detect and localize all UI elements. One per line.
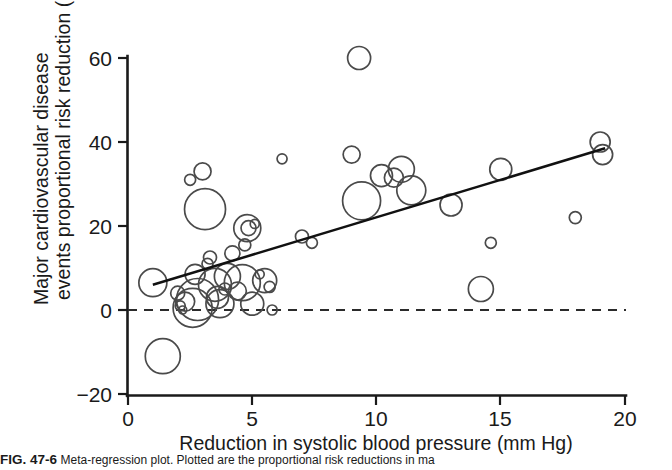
meta-regression-scatter-plot: Major cardiovascular disease events prop… bbox=[0, 0, 672, 470]
bubble-marker bbox=[569, 212, 581, 224]
bubble-marker bbox=[241, 292, 264, 315]
bubble-marker bbox=[185, 174, 196, 185]
bubble-marker bbox=[468, 277, 493, 302]
bubble-marker bbox=[397, 176, 426, 205]
y-axis-ticks: 60 40 20 0 −20 bbox=[76, 47, 127, 406]
bubble-marker bbox=[388, 156, 414, 182]
bubble-marker bbox=[145, 339, 180, 374]
regression-trend-line bbox=[153, 148, 605, 284]
bubble-marker bbox=[206, 290, 234, 318]
y-tick-label-40: 40 bbox=[89, 131, 112, 154]
bubble-marker bbox=[194, 163, 211, 180]
figure-panel: Major cardiovascular disease events prop… bbox=[0, 0, 672, 470]
x-tick-label-5: 5 bbox=[246, 407, 258, 430]
y-axis-title-line1: Major cardiovascular disease bbox=[30, 52, 52, 305]
y-tick-label-60: 60 bbox=[89, 47, 112, 70]
x-axis-title: Reduction in systolic blood pressure (mm… bbox=[179, 432, 572, 454]
bubble-marker bbox=[214, 263, 240, 289]
x-tick-label-10: 10 bbox=[364, 407, 387, 430]
y-tick-label-0: 0 bbox=[100, 299, 112, 322]
bubble-marker bbox=[348, 47, 371, 70]
x-tick-label-0: 0 bbox=[122, 407, 134, 430]
bubble-marker bbox=[485, 237, 496, 248]
y-tick-label-minus20: −20 bbox=[76, 383, 112, 406]
y-axis-title-line2: events proportional risk reduction (%) bbox=[52, 0, 74, 300]
bubble-marker bbox=[185, 189, 226, 230]
bubble-marker bbox=[343, 146, 360, 163]
bubble-marker bbox=[593, 145, 613, 165]
y-tick-label-20: 20 bbox=[89, 215, 112, 238]
x-axis-ticks: 0 5 10 15 20 bbox=[122, 396, 637, 430]
figure-caption: FIG. 47-6 Meta-regression plot. Plotted … bbox=[0, 452, 672, 468]
bubble-marker bbox=[384, 168, 403, 187]
figure-number: FIG. 47-6 bbox=[0, 452, 57, 467]
bubble-series bbox=[139, 47, 613, 374]
x-tick-label-15: 15 bbox=[488, 407, 511, 430]
bubble-marker bbox=[204, 251, 217, 264]
bubble-marker bbox=[343, 182, 381, 220]
x-tick-label-20: 20 bbox=[613, 407, 636, 430]
figure-caption-body: Meta-regression plot. Plotted are the pr… bbox=[61, 453, 435, 467]
bubble-marker bbox=[277, 154, 287, 164]
